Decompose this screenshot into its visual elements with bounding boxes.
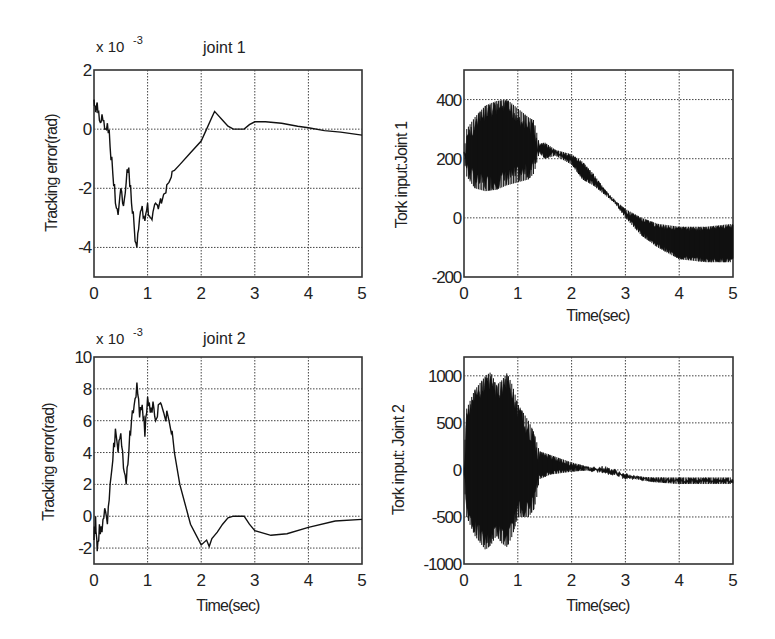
plot-title: joint 1 (202, 39, 246, 56)
y-axis-label: Tracking error(rad) (43, 114, 60, 232)
x-tick-label: 3 (621, 284, 630, 303)
y-tick-label: 2 (83, 61, 92, 80)
y-axis-label: Tork input:Joint 1 (393, 121, 410, 228)
y-exponent-base: x 10 (96, 330, 124, 347)
y-tick-label: 0 (453, 461, 462, 480)
y-tick-label: 8 (83, 380, 92, 399)
x-tick-label: 3 (621, 571, 630, 590)
plot-joint2-tracking-error: 012345-20246810 x 10 -3 joint 2 Time(sec… (40, 326, 367, 614)
y-tick-label: -4 (78, 238, 91, 257)
x-tick-label: 1 (143, 571, 152, 590)
y-tick-label: 4 (83, 444, 92, 463)
y-axis-label: Tork input: Joint 2 (390, 404, 407, 515)
plot-joint2-torque-input: 012345-1000-50005001000 Time(sec) Tork i… (390, 357, 738, 614)
y-exponent-base: x 10 (96, 38, 124, 55)
x-tick-label: 5 (357, 571, 366, 590)
x-tick-label: 5 (728, 284, 737, 303)
x-tick-label: 2 (196, 571, 205, 590)
x-tick-label: 3 (250, 284, 259, 303)
y-tick-label: 2 (83, 475, 92, 494)
y-tick-label: -1000 (424, 555, 462, 574)
x-tick-label: 1 (143, 284, 152, 303)
x-tick-label: 2 (567, 571, 576, 590)
y-tick-label: -200 (432, 268, 462, 287)
x-tick-label: 4 (304, 284, 313, 303)
y-tick-label: 500 (436, 414, 462, 433)
y-axis-label: Tracking error(rad) (40, 403, 57, 521)
y-exponent-power: -3 (133, 326, 143, 338)
x-tick-label: 2 (196, 284, 205, 303)
x-tick-label: 4 (304, 571, 313, 590)
axes-frame (94, 70, 362, 277)
y-tick-label: 0 (453, 209, 462, 228)
figure-canvas: 012345-4-202 x 10 -3 joint 1 Tracking er… (0, 0, 775, 639)
x-tick-label: 4 (674, 571, 683, 590)
x-tick-label: 1 (513, 571, 522, 590)
y-tick-label: 200 (436, 150, 462, 169)
y-exponent-power: -3 (133, 34, 143, 46)
y-tick-label: -2 (78, 539, 91, 558)
y-tick-label: 1000 (428, 367, 462, 386)
x-axis-label: Time(sec) (566, 597, 630, 614)
x-tick-label: 3 (250, 571, 259, 590)
plot-joint1-tracking-error: 012345-4-202 x 10 -3 joint 1 Tracking er… (43, 34, 367, 303)
x-tick-label: 5 (728, 571, 737, 590)
y-tick-label: 6 (83, 412, 92, 431)
x-tick-label: 5 (357, 284, 366, 303)
y-tick-label: -500 (432, 508, 462, 527)
x-tick-label: 0 (89, 571, 98, 590)
y-tick-label: 0 (83, 120, 92, 139)
x-axis-label: Time(sec) (196, 597, 260, 614)
axes-frame (94, 357, 362, 564)
x-tick-label: 0 (89, 284, 98, 303)
plot-joint1-torque-input: 012345-2000200400 Time(sec) Tork input:J… (393, 70, 738, 324)
x-tick-label: 4 (674, 284, 683, 303)
x-tick-label: 2 (567, 284, 576, 303)
y-tick-label: 10 (74, 348, 91, 367)
plot-title: joint 2 (202, 330, 246, 347)
x-tick-label: 1 (513, 284, 522, 303)
y-tick-label: 400 (436, 91, 462, 110)
y-tick-label: -2 (78, 179, 91, 198)
y-tick-label: 0 (83, 507, 92, 526)
x-axis-label: Time(sec) (566, 307, 630, 324)
